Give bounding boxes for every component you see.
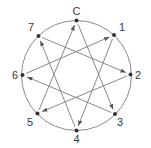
arrow-4-to-7 (40, 41, 75, 127)
node-label-5: 5 (27, 116, 33, 128)
node-label-3: 3 (117, 116, 123, 128)
node-label-6: 6 (12, 69, 18, 81)
node-labels: C1234567 (12, 5, 141, 145)
arrow-2-to-5 (42, 76, 127, 112)
arrow-1-to-4 (78, 39, 112, 126)
node-6 (21, 73, 25, 77)
nodes (21, 19, 133, 133)
node-C (75, 19, 79, 23)
arrow-6-to-1 (26, 37, 109, 73)
node-label-7: 7 (28, 21, 34, 33)
node-label-4: 4 (73, 133, 79, 145)
arrow-C-to-3 (78, 24, 113, 109)
node-5 (36, 112, 40, 116)
arrow-edges (26, 24, 127, 127)
node-2 (129, 73, 133, 77)
cycle-diagram: C1234567 (0, 0, 151, 148)
node-7 (37, 34, 41, 38)
arrow-7-to-2 (42, 38, 126, 73)
node-1 (112, 33, 116, 37)
node-4 (75, 129, 79, 133)
node-label-1: 1 (119, 21, 125, 33)
node-label-C: C (73, 5, 81, 17)
node-label-2: 2 (135, 69, 141, 81)
arrow-5-to-C (39, 25, 75, 110)
